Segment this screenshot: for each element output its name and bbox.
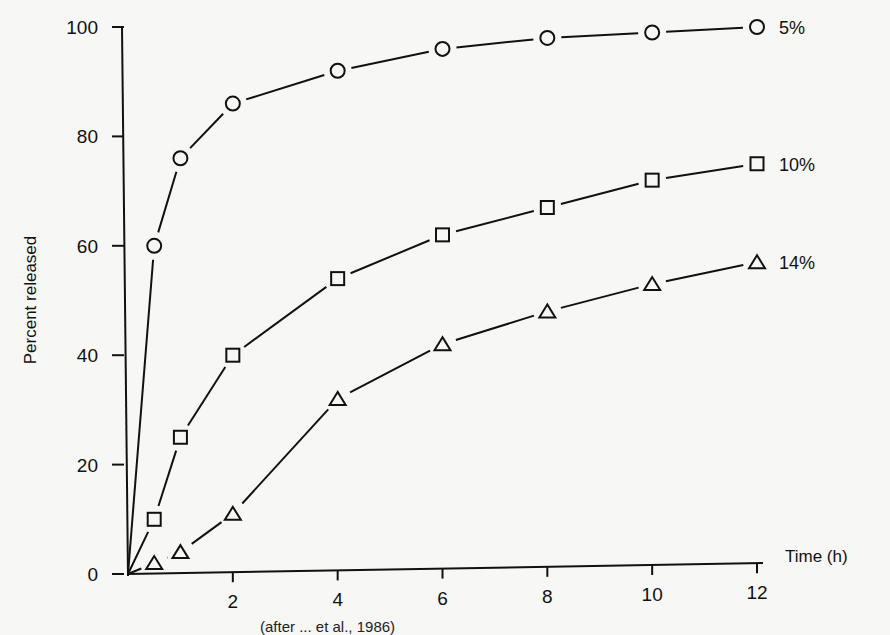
triangle-marker (330, 392, 346, 405)
square-marker (646, 174, 659, 187)
y-axis-title: Percent released (21, 236, 40, 365)
y-axis (122, 27, 128, 576)
triangle-marker (539, 304, 555, 317)
y-ticks: 020406080100 (66, 17, 124, 585)
figure-caption: (after ... et al., 1986) (260, 618, 395, 635)
x-tick-label: 2 (228, 591, 239, 612)
square-marker (174, 431, 187, 444)
y-tick-label: 80 (77, 126, 98, 147)
x-tick-label: 12 (746, 582, 767, 603)
series-group: 5%10%14% (128, 18, 815, 574)
x-axis (128, 563, 763, 574)
circle-marker (645, 25, 659, 39)
y-tick-label: 100 (66, 17, 98, 38)
y-tick-label: 40 (77, 345, 98, 366)
square-marker (436, 228, 449, 241)
triangle-marker (172, 545, 188, 558)
x-tick-label: 10 (642, 584, 663, 605)
x-tick-label: 8 (542, 586, 553, 607)
square-marker (148, 513, 161, 526)
x-axis-title: Time (h) (785, 547, 848, 566)
y-tick-label: 60 (77, 236, 98, 257)
series-label: 5% (779, 18, 805, 38)
series-label: 10% (779, 155, 815, 175)
circle-marker (540, 31, 554, 45)
circle-marker (147, 239, 161, 253)
circle-marker (436, 42, 450, 56)
y-tick-label: 20 (77, 455, 98, 476)
circle-marker (331, 64, 345, 78)
square-marker (226, 349, 239, 362)
square-marker (541, 201, 554, 214)
square-marker (751, 157, 764, 170)
circle-marker (226, 97, 240, 111)
triangle-marker (225, 507, 241, 520)
triangle-marker (146, 556, 162, 569)
x-tick-label: 6 (437, 588, 448, 609)
series-triangle: 14% (128, 253, 815, 574)
triangle-marker (749, 255, 765, 268)
circle-marker (173, 151, 187, 165)
y-tick-label: 0 (87, 564, 98, 585)
series-label: 14% (779, 253, 815, 273)
square-marker (331, 272, 344, 285)
series-circle: 5% (128, 18, 805, 574)
triangle-marker (435, 337, 451, 350)
circle-marker (750, 20, 764, 34)
x-tick-label: 4 (332, 589, 343, 610)
triangle-marker (644, 277, 660, 290)
